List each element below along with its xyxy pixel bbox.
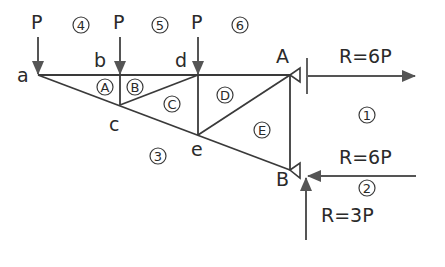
load-label-d: P — [191, 11, 202, 33]
applied-loads — [38, 37, 198, 74]
node-label-a: a — [17, 64, 29, 86]
zone-label-E: E — [258, 123, 266, 138]
node-label-e: e — [191, 138, 203, 160]
zone-label-2: 2 — [363, 181, 371, 196]
zone-label-6: 6 — [236, 18, 244, 33]
support-A-triangle-icon — [290, 68, 300, 82]
support-B — [290, 163, 300, 178]
zone-label-1: 1 — [363, 108, 371, 123]
support-A — [290, 58, 307, 94]
truss-members — [38, 75, 290, 170]
node-label-d: d — [175, 49, 187, 71]
load-label-a: P — [31, 11, 42, 33]
node-label-b: b — [94, 49, 106, 71]
node-label-c: c — [109, 113, 119, 135]
node-label-A: A — [276, 45, 289, 67]
load-label-b: P — [113, 11, 124, 33]
node-label-B: B — [276, 168, 289, 190]
zone-label-D: D — [220, 88, 230, 103]
zone-label-4: 4 — [77, 18, 85, 33]
reaction-label-B-horizontal: R=6P — [339, 146, 392, 168]
outer-zone-labels: 4 5 6 1 2 3 — [73, 17, 375, 196]
member-a-B-bottom-chord — [38, 75, 290, 170]
member-e-A — [198, 75, 290, 135]
reaction-label-B-vertical: R=3P — [321, 204, 374, 226]
zone-label-5: 5 — [156, 18, 164, 33]
zone-label-B: B — [131, 80, 140, 95]
zone-label-A: A — [101, 80, 110, 95]
zone-label-C: C — [167, 97, 176, 112]
support-B-triangle-icon — [290, 163, 300, 178]
zone-label-3: 3 — [154, 149, 162, 164]
reaction-label-A: R=6P — [339, 45, 392, 67]
truss-diagram: P P P R=6P R=6P R=3P a b d A c e B 4 5 6… — [0, 0, 445, 267]
